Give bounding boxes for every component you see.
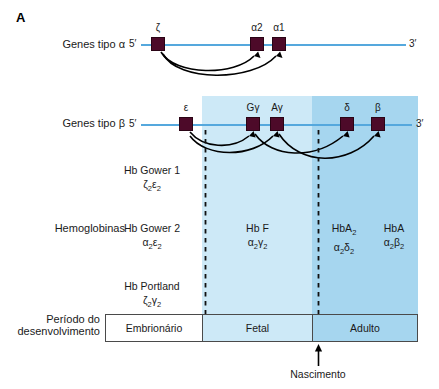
arrowhead-alpha1 bbox=[276, 52, 283, 58]
hb-entry-hb-f: Hb F α2γ2 bbox=[215, 221, 300, 254]
hb-formula: ζ2ε2 bbox=[102, 177, 202, 196]
period-cell-adulto: Adulto bbox=[313, 315, 417, 341]
alpha-arc-arrowheads bbox=[254, 52, 283, 58]
hb-title: Hb Gower 2 bbox=[102, 221, 202, 235]
birth-label: Nascimento bbox=[258, 368, 378, 380]
hb-entry-hb-gower-1: Hb Gower 1 ζ2ε2 bbox=[102, 163, 202, 196]
hb-title: Hb F bbox=[215, 221, 300, 235]
hb-formula: α2ε2 bbox=[102, 235, 202, 254]
hb-title: Hb Portland bbox=[102, 279, 202, 293]
hb-entry-hb-portland: Hb Portland ζ2γ2 bbox=[102, 279, 202, 312]
period-label-line-1: Período do bbox=[0, 313, 100, 325]
arc-gamma-to-delta bbox=[255, 134, 343, 153]
hb-formula: α2β2 bbox=[359, 235, 429, 254]
hb-title: Hb Gower 1 bbox=[102, 163, 202, 177]
arrowhead-alpha2 bbox=[254, 52, 261, 58]
beta-arc-arrowheads bbox=[249, 131, 381, 138]
hb-entry-hb-a: HbA α2β2 bbox=[359, 221, 429, 254]
hb-formula: α2γ2 bbox=[215, 235, 300, 254]
arc-zeta-to-alpha2 bbox=[161, 52, 254, 71]
hb-title: HbA bbox=[359, 221, 429, 235]
arrowhead-delta bbox=[343, 131, 350, 138]
row-label-period: Período do desenvolvimento bbox=[0, 313, 100, 337]
hb-entry-hb-gower-2: Hb Gower 2 α2ε2 bbox=[102, 221, 202, 254]
period-cell-embrionario: Embrionário bbox=[106, 315, 203, 341]
period-label-line-2: desenvolvimento bbox=[0, 325, 100, 337]
hb-formula: ζ2γ2 bbox=[102, 293, 202, 312]
figure-panel: A Genes tipo α 5′ 3′ ζ α2 α1 Genes tipo … bbox=[0, 0, 439, 389]
birth-arrow-head bbox=[315, 344, 322, 352]
arrowhead-beta bbox=[374, 131, 381, 138]
period-cell-fetal: Fetal bbox=[203, 315, 313, 341]
period-bar: Embrionário Fetal Adulto bbox=[105, 314, 418, 342]
